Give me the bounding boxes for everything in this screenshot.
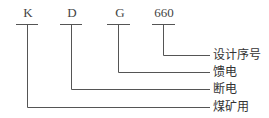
label-feeder: 馈电 [213,65,237,79]
code-660: 660 [154,5,174,21]
code-d: D [67,5,76,21]
label-coal-mine-use: 煤矿用 [213,100,249,114]
label-power-off: 断电 [213,82,237,96]
label-design-serial: 设计序号 [213,48,261,62]
code-k: K [23,5,32,21]
code-g: G [115,5,124,21]
